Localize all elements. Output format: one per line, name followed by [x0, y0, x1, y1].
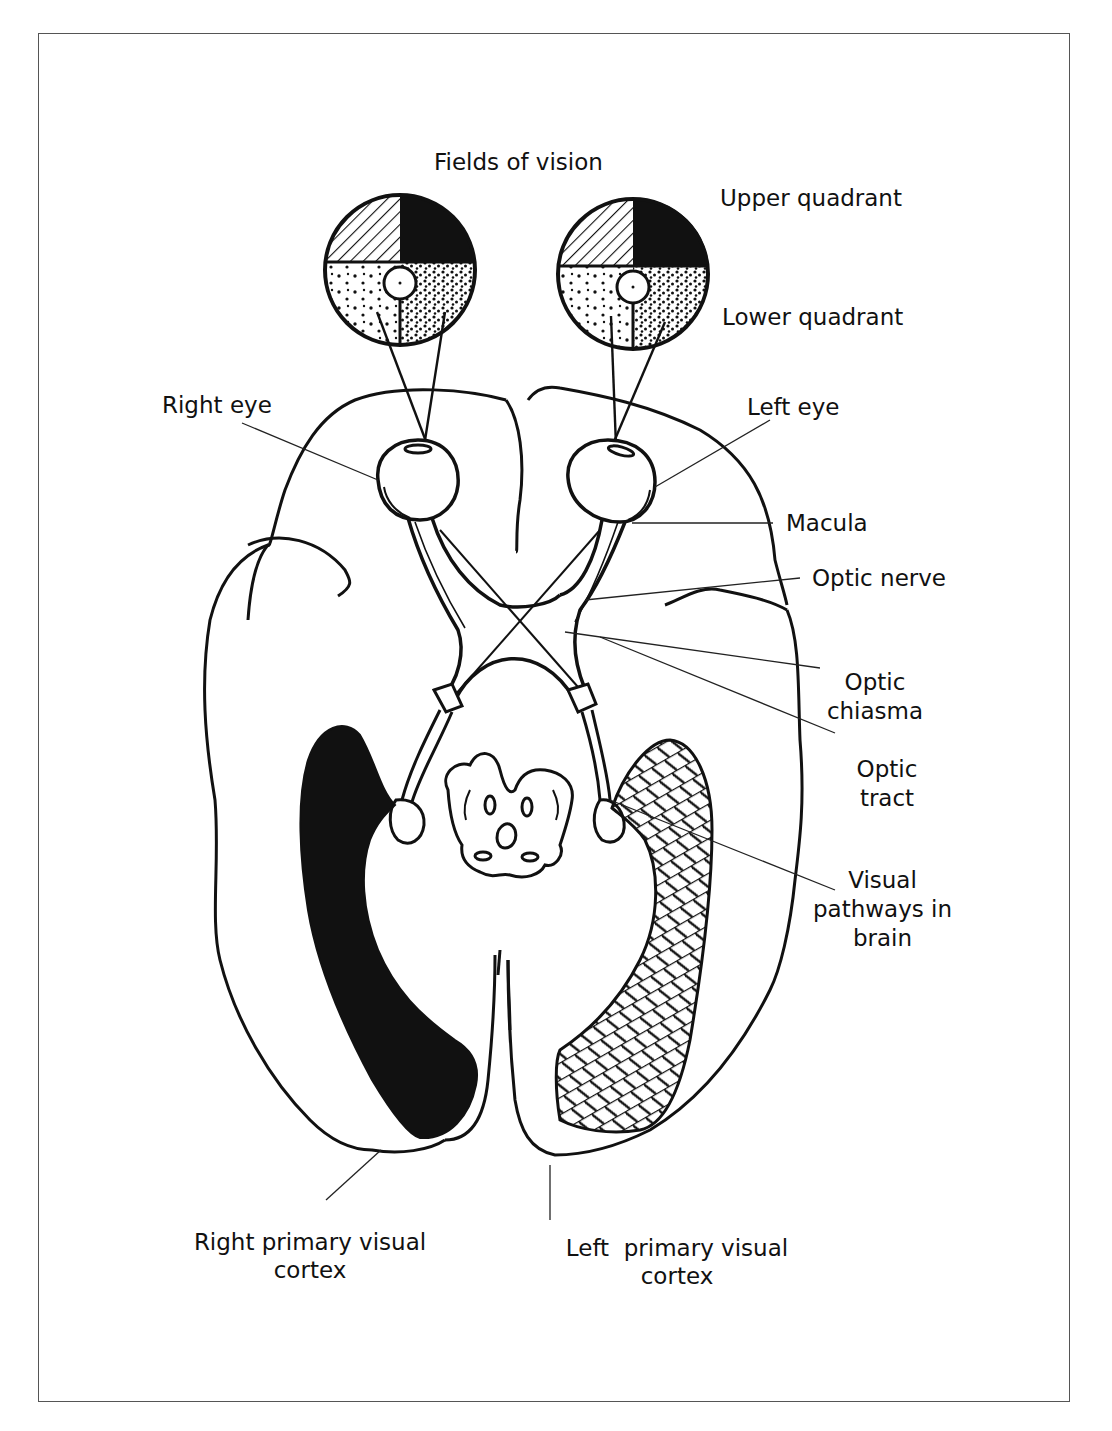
- visual-pathway-diagram: [0, 0, 1112, 1431]
- optic-chiasma-label-line1: Optic: [820, 668, 930, 697]
- brain-outline: [205, 387, 803, 1155]
- upper-quadrant-label: Upper quadrant: [720, 184, 902, 212]
- right-eye-visual-field: [325, 195, 475, 345]
- midbrain-cross-section: [446, 754, 573, 877]
- optic-chiasma-label: Optic chiasma: [820, 668, 930, 726]
- optic-tract-label-line2: tract: [842, 784, 932, 813]
- macula-label: Macula: [786, 509, 868, 537]
- left-primary-visual-cortex-label: Left primary visual cortex: [542, 1234, 812, 1290]
- left-visual-pathway-crosshatch: [556, 740, 712, 1132]
- visual-pathways-label-line1: Visual: [800, 866, 965, 895]
- right-cortex-label-line2: cortex: [170, 1256, 450, 1284]
- optic-chiasma-label-line2: chiasma: [820, 697, 930, 726]
- visual-pathways-label-line3: brain: [800, 924, 965, 953]
- left-cortex-label-line2: cortex: [542, 1262, 812, 1290]
- visual-pathways-label-line2: pathways in: [800, 895, 965, 924]
- right-eye-label: Right eye: [162, 391, 272, 419]
- optic-tract-label: Optic tract: [842, 755, 932, 813]
- left-eyeball: [568, 440, 655, 522]
- left-cortex-label-line1: Left primary visual: [542, 1234, 812, 1262]
- lower-quadrant-label: Lower quadrant: [722, 303, 903, 331]
- right-eyeball: [378, 440, 458, 520]
- left-eye-label: Left eye: [747, 393, 840, 421]
- fields-of-vision-title: Fields of vision: [434, 148, 603, 176]
- right-primary-visual-cortex-label: Right primary visual cortex: [170, 1228, 450, 1284]
- left-eye-visual-field: [558, 198, 709, 350]
- optic-tract-label-line1: Optic: [842, 755, 932, 784]
- optic-nerve-label: Optic nerve: [812, 564, 946, 592]
- right-cortex-label-line1: Right primary visual: [170, 1228, 450, 1256]
- optic-tract-collars: [434, 684, 596, 712]
- visual-pathways-label: Visual pathways in brain: [800, 866, 965, 953]
